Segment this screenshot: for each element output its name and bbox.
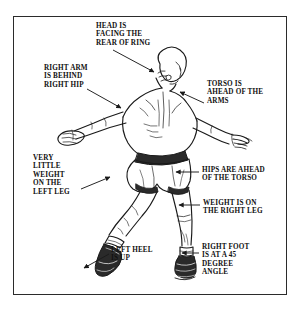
callout-head: HEAD IS FACING THE REAR OF RING [96,22,150,47]
callout-hips: HIPS ARE AHEAD OF THE TORSO [202,166,265,183]
arrow-head [113,50,154,72]
callout-right-foot: RIGHT FOOT IS AT A 45 DEGREE ANGLE [202,243,250,277]
callout-weight-right-leg: WEIGHT IS ON THE RIGHT LEG [203,199,263,216]
arrow-torso [180,92,204,103]
arrow-left-heel [84,254,109,268]
callout-torso: TORSO IS AHEAD OF THE ARMS [207,80,263,105]
callout-right-arm: RIGHT ARM IS BEHIND RIGHT HIP [44,64,88,89]
diagram-root: HEAD IS FACING THE REAR OF RING RIGHT AR… [0,0,302,311]
callout-left-heel: LEFT HEEL IS UP [111,246,153,263]
arrow-right-arm [87,89,121,108]
arrow-left-leg [81,177,110,189]
callout-very-little-weight: VERY LITTLE WEIGHT ON THE LEFT LEG [33,154,70,196]
